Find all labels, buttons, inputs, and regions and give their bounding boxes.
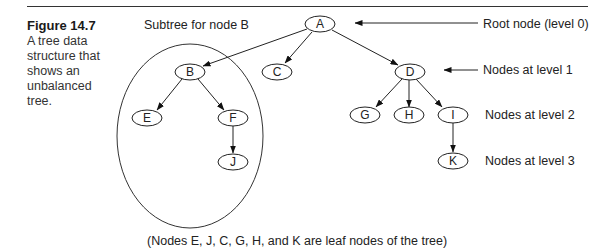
node-d-label: D bbox=[406, 65, 415, 79]
edge-d-i bbox=[416, 79, 442, 107]
level2-label: Nodes at level 2 bbox=[485, 108, 575, 122]
node-b-label: B bbox=[186, 65, 194, 79]
edge-d-g bbox=[376, 79, 402, 107]
edge-b-f bbox=[198, 79, 224, 110]
level3-label: Nodes at level 3 bbox=[485, 154, 575, 168]
tree-diagram: A B C D E F G H I J K bbox=[0, 0, 610, 250]
level1-label: Nodes at level 1 bbox=[483, 63, 573, 77]
edge-a-b bbox=[203, 29, 307, 66]
node-c-label: C bbox=[273, 65, 282, 79]
edge-b-e bbox=[157, 79, 182, 110]
node-h-label: H bbox=[405, 108, 414, 122]
node-j-label: J bbox=[230, 155, 236, 169]
node-e-label: E bbox=[143, 111, 151, 125]
node-a-label: A bbox=[316, 17, 324, 31]
node-i-label: I bbox=[451, 108, 454, 122]
node-f-label: F bbox=[229, 111, 236, 125]
node-g-label: G bbox=[360, 108, 369, 122]
leaf-nodes-footnote: (Nodes E, J, C, G, H, and K are leaf nod… bbox=[147, 234, 447, 248]
node-k-label: K bbox=[449, 154, 457, 168]
root-level-label: Root node (level 0) bbox=[483, 17, 589, 31]
edge-a-c bbox=[285, 32, 312, 63]
subtree-label: Subtree for node B bbox=[144, 18, 249, 32]
edge-a-d bbox=[332, 30, 398, 65]
